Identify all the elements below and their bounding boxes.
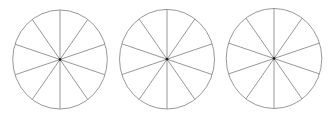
sector-spoke [139,19,167,59]
sector-spoke [167,59,212,74]
sector-spoke [122,59,167,74]
sector-spoke [139,59,167,99]
sector-spoke [229,43,274,58]
sector-spoke [274,18,302,58]
sector-spoke [246,18,274,58]
center-dot [59,58,62,61]
sector-spoke [274,43,319,58]
sector-spoke [60,60,105,75]
center-dot [166,58,169,61]
sector-spoke [122,44,167,59]
circle-2-ten-sectors [120,9,215,109]
sector-spoke [274,59,319,74]
sector-spoke [167,59,195,99]
sector-spoke [15,44,60,59]
circle-1-ten-sectors [13,10,108,109]
sector-spoke [60,19,88,59]
circle-3-ten-sectors [226,9,322,109]
sector-spoke [32,19,60,59]
divided-circles-diagram [0,0,333,133]
sector-spoke [167,19,195,59]
sector-spoke [32,60,60,100]
diagram-canvas [0,0,333,133]
center-dot [273,57,276,60]
sector-spoke [15,60,60,75]
sector-spoke [246,59,274,99]
sector-spoke [60,60,88,100]
sector-spoke [229,59,274,74]
sector-spoke [60,44,105,59]
sector-spoke [167,44,212,59]
sector-spoke [274,59,302,99]
